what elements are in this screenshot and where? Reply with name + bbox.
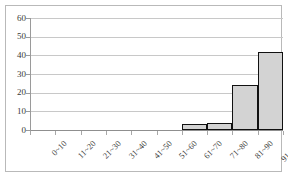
x-axis-labels: 0~10 11~20 21~30 31~40 41~50 51~60 61~70… [0,0,288,183]
x-tick-label-21-30: 21~30 [102,139,124,161]
x-tick-7 [207,131,208,135]
x-tick-label-0-10: 0~10 [50,139,69,158]
x-tick-9 [258,131,259,135]
x-tick-label-41-50: 41~50 [152,139,174,161]
x-tick-8 [232,131,233,135]
x-tick-1 [55,131,56,135]
x-tick-label-51-60: 51~60 [177,139,199,161]
x-tick-label-71-80: 71~80 [228,139,250,161]
histogram-chart: 60 50 40 30 20 10 0 0~10 11~20 21~30 31~ [0,0,288,183]
x-tick-6 [182,131,183,135]
x-tick-label-11-20: 11~20 [76,139,97,160]
x-tick-0 [30,131,31,135]
x-tick-4 [131,131,132,135]
x-tick-label-91-100: 91~100 [280,139,288,164]
x-tick-2 [81,131,82,135]
x-tick-5 [157,131,158,135]
x-tick-label-81-90: 81~90 [253,139,275,161]
x-tick-label-31-40: 31~40 [127,139,149,161]
x-tick-10 [283,131,284,135]
x-tick-3 [106,131,107,135]
x-tick-label-61-70: 61~70 [203,139,225,161]
